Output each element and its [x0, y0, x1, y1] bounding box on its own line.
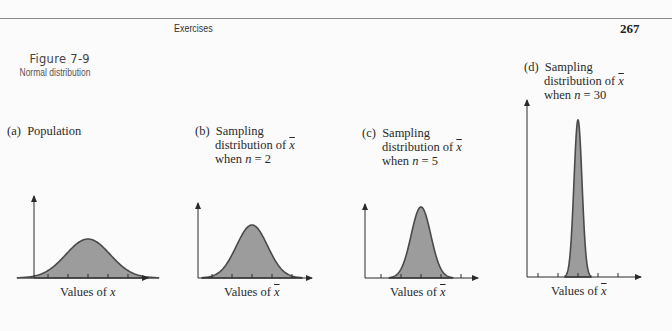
distribution-curve: [565, 120, 591, 277]
figure-plots: [0, 0, 672, 331]
panel-c-plot: [365, 204, 478, 278]
distribution-curve: [390, 207, 453, 278]
panel-b-plot: [198, 203, 312, 278]
panel-c-xlabel: Values of x: [390, 285, 446, 300]
panel-a-plot: [18, 196, 159, 278]
panel-a-xlabel: Values of x: [60, 285, 116, 300]
distribution-curve: [18, 239, 159, 278]
panel-d-plot: [527, 100, 641, 277]
panel-b-xlabel: Values of x: [224, 285, 280, 300]
panel-d-xlabel: Values of x: [551, 284, 607, 299]
distribution-curve: [202, 225, 302, 278]
